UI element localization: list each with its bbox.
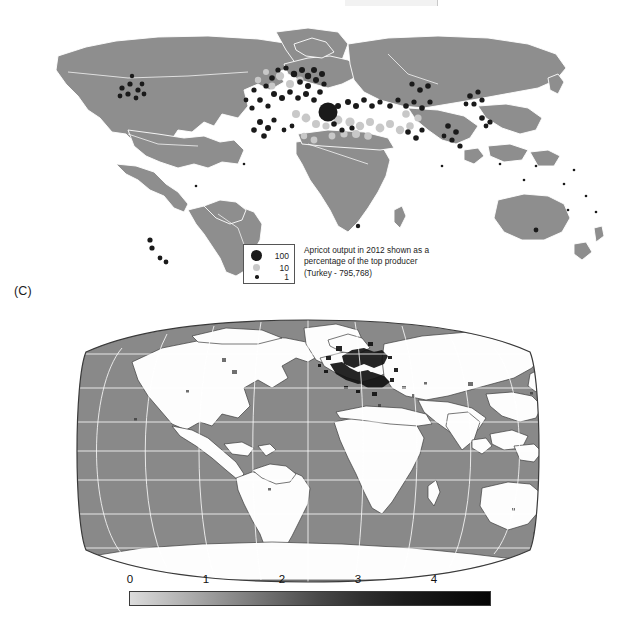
legend-value-100: 100 [275, 252, 289, 261]
legend-dot-medium [253, 264, 260, 271]
legend-value-1: 1 [284, 273, 289, 282]
legend-item-1: 1 [244, 273, 294, 281]
colorbar-gradient [129, 591, 491, 606]
colorbar-tick-0: 0 [127, 574, 133, 586]
colorbar-tick-1: 1 [203, 574, 209, 586]
legend-key-box: 100 10 1 [243, 244, 295, 284]
colorbar-tick-labels: 0 1 2 3 4 [129, 574, 491, 590]
colorbar-tick-4: 4 [431, 574, 437, 586]
colorbar-tick-3: 3 [355, 574, 361, 586]
figure-container: 100 10 1 Apricot output in 2012 shown as… [0, 0, 621, 642]
robinson-world-map-svg [72, 318, 544, 584]
colorbar: 0 1 2 3 4 [129, 574, 491, 608]
top-producer-dot [319, 103, 338, 122]
legend-caption: Apricot output in 2012 shown as a percen… [304, 244, 429, 279]
legend: 100 10 1 Apricot output in 2012 shown as… [243, 244, 429, 284]
legend-dot-large [251, 250, 262, 261]
robinson-world-map [72, 318, 544, 584]
world-dot-map [8, 14, 613, 279]
world-dot-map-svg [8, 14, 613, 279]
legend-item-100: 100 [244, 248, 294, 262]
panel-label-c: (C) [14, 284, 32, 298]
panel-c: 100 10 1 Apricot output in 2012 shown as… [0, 0, 621, 310]
colorbar-tick-2: 2 [279, 574, 285, 586]
legend-dot-small [255, 275, 259, 279]
legend-item-10: 10 [244, 262, 294, 272]
